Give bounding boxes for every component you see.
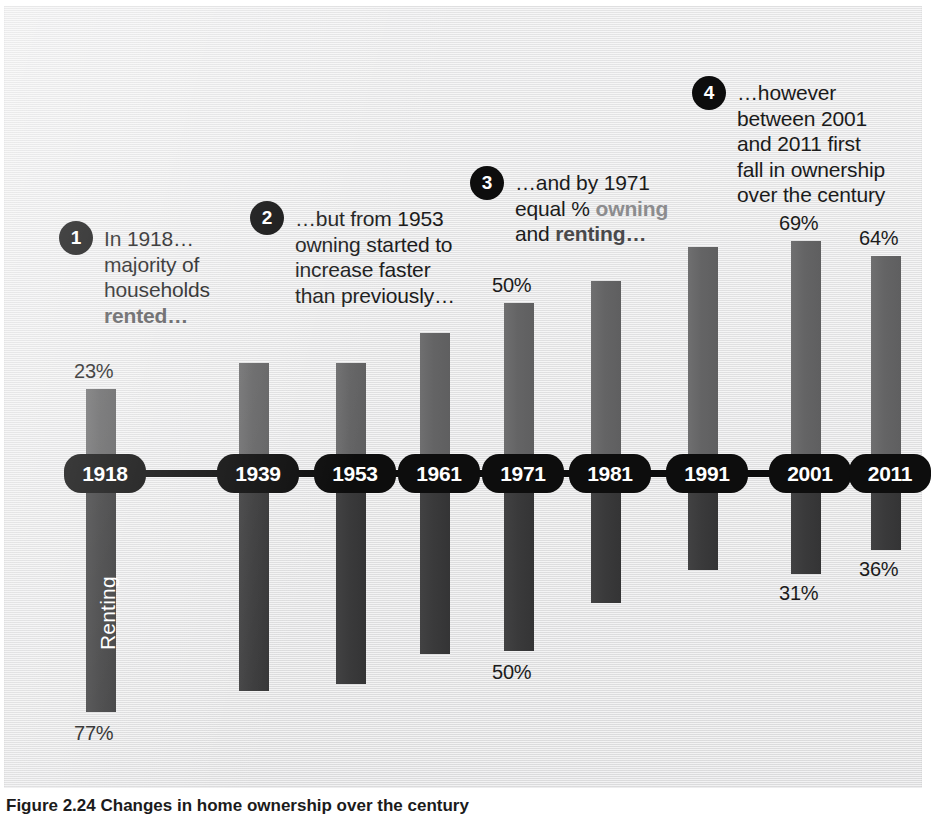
annotation-1-line-2: majority of [104,252,229,278]
bar-owning-1971 [504,303,534,477]
annotation-4-line-3: and 2011 first [737,131,927,157]
annotation-3-line-3: and renting… [515,221,690,247]
annotation-2-line-1: …but from 1953 [295,206,485,232]
bar-renting-2001 [791,484,821,574]
year-pill-2001[interactable]: 2001 [769,454,851,493]
bar-renting-1961 [420,484,450,654]
annotation-badge-4: 4 [692,76,726,110]
annotation-1-line-1: In 1918… [104,226,229,252]
annotation-3-line-2-plain: equal % [515,197,596,220]
year-pill-1991[interactable]: 1991 [666,454,748,493]
bar-label-owning-2011: 64% [859,227,898,250]
annotation-badge-3: 3 [470,166,504,200]
year-pill-1939[interactable]: 1939 [217,454,299,493]
annotation-1-line-3: households [104,277,229,303]
annotation-2-line-3: increase faster [295,257,485,283]
bar-label-renting-2011: 36% [859,558,898,581]
bar-renting-1939 [239,484,269,691]
annotation-3-renting-emphasis: renting… [555,222,646,245]
bar-owning-2011 [871,256,901,477]
year-pill-1918[interactable]: 1918 [64,454,146,493]
figure-caption: Figure 2.24 Changes in home ownership ov… [6,796,916,814]
year-pill-1981[interactable]: 1981 [569,454,651,493]
annotation-1-line-4: rented… [104,303,229,329]
chart-plate: 23% 77% Renting 50% 50% [4,6,922,788]
annotation-2-line-4: than previously… [295,283,485,309]
annotation-3-line-1: …and by 1971 [515,170,690,196]
annotation-4-line-1: …however [737,80,927,106]
annotation-3-line-3-plain: and [515,222,555,245]
bar-owning-1981 [591,281,621,477]
annotation-badge-1: 1 [59,221,93,255]
year-pill-1971[interactable]: 1971 [482,454,564,493]
annotation-4-line-2: between 2001 [737,106,927,132]
annotation-2-line-2: owning started to [295,232,485,258]
bar-label-owning-1971: 50% [492,274,531,297]
bar-renting-2011 [871,484,901,550]
bar-renting-1981 [591,484,621,603]
annotation-text-1: In 1918… majority of households rented… [104,226,229,328]
annotation-text-3: …and by 1971 equal % owning and renting… [515,170,690,247]
annotation-4-line-4: fall in ownership [737,157,927,183]
bar-renting-1991 [688,484,718,570]
annotation-4-line-5: over the century [737,182,927,208]
year-pill-1953[interactable]: 1953 [314,454,396,493]
bar-label-renting-1971: 50% [492,661,531,684]
annotation-badge-2: 2 [250,201,284,235]
bar-renting-1953 [336,484,366,684]
bar-owning-2001 [791,241,821,477]
bar-owning-1991 [688,247,718,477]
renting-series-inbar-label: Renting [96,576,120,650]
bar-label-owning-1918: 23% [74,360,113,383]
annotation-text-4: …however between 2001 and 2011 first fal… [737,80,927,208]
bar-renting-1971 [504,484,534,651]
year-pill-1961[interactable]: 1961 [398,454,480,493]
bar-label-renting-2001: 31% [779,582,818,605]
bar-label-renting-1918: 77% [74,722,113,745]
bar-label-owning-2001: 69% [779,212,818,235]
year-pill-2011[interactable]: 2011 [849,454,931,493]
annotation-text-2: …but from 1953 owning started to increas… [295,206,485,308]
annotation-3-owning-emphasis: owning [596,197,669,220]
annotation-3-line-2: equal % owning [515,196,690,222]
